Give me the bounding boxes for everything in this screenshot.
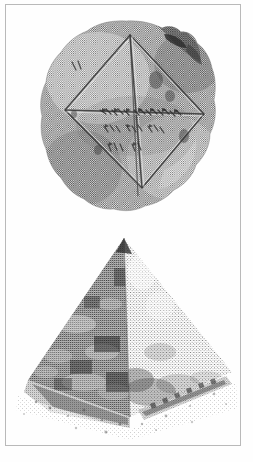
pyramid-illustration (10, 232, 240, 442)
page-frame-rule-left (5, 4, 6, 446)
scanned-page (0, 0, 253, 462)
page-frame-rule-bottom (5, 445, 241, 446)
tablet-illustration (38, 18, 218, 214)
babylonian-tablet-figure (38, 18, 218, 214)
page-frame-rule-right (240, 4, 241, 446)
page-frame-rule-top (5, 4, 241, 5)
great-pyramid-figure (10, 232, 240, 442)
